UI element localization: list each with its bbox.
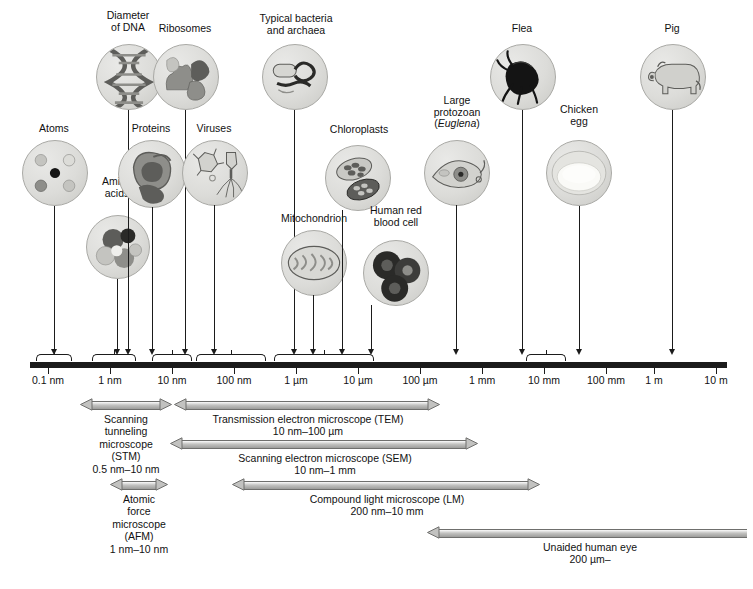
brace-10nm-right	[172, 354, 192, 361]
specimen-art-ribosomes	[154, 45, 218, 109]
range-arrow-unaided-eye	[427, 526, 747, 539]
specimen-art-chloroplasts	[326, 146, 390, 210]
specimen-bubble-typical-bacteria	[262, 44, 328, 110]
specimen-art-mitochondrion	[282, 231, 346, 295]
specimen-art-typical-bacteria	[263, 45, 327, 109]
specimen-label-typical-bacteria: Typical bacteria and archaea	[249, 13, 343, 36]
range-arrow-stm	[80, 398, 172, 411]
brace-um-right	[324, 354, 374, 361]
specimen-art-human-red-blood-cell	[364, 241, 428, 305]
specimen-art-atoms	[23, 141, 87, 205]
specimen-art-flea	[491, 45, 555, 109]
brace-0-1nm-right	[54, 354, 72, 361]
specimen-bubble-flea	[490, 44, 556, 110]
range-head-right-sem	[465, 437, 478, 450]
range-arrow-sem	[170, 437, 478, 450]
specimen-bubble-mitochondrion	[281, 230, 347, 296]
axis-tick-label-7: 1 mm	[452, 374, 512, 386]
range-caption-afm: Atomic force microscope (AFM) 1 nm–10 nm	[98, 493, 180, 555]
range-shaft-lm	[243, 481, 529, 490]
range-head-left-afm	[110, 478, 123, 491]
axis-tick-label-5: 10 µm	[328, 374, 388, 386]
specimen-art-large-protozoan	[425, 141, 489, 205]
brace-10nm-left	[152, 354, 172, 361]
specimen-bubble-ribosomes	[153, 44, 219, 110]
specimen-label-atoms: Atoms	[22, 123, 86, 135]
leader-line-large-protozoan	[456, 205, 457, 349]
range-arrow-tem	[174, 398, 440, 411]
leader-line-flea	[522, 110, 523, 349]
axis-tick-label-1: 1 nm	[80, 374, 140, 386]
axis-tick-label-4: 1 µm	[266, 374, 326, 386]
brace-10mm	[526, 350, 566, 360]
specimen-label-pig: Pig	[638, 23, 706, 35]
specimen-bubble-amino-acids	[86, 215, 150, 279]
specimen-bubble-pig	[640, 44, 706, 110]
range-caption-sem: Scanning electron microscope (SEM) 10 nm…	[176, 452, 474, 477]
range-head-right-lm	[527, 478, 540, 491]
leader-line-pig	[672, 110, 673, 349]
specimen-bubble-chicken-egg	[546, 140, 612, 206]
specimen-bubble-atoms	[22, 140, 88, 206]
specimen-art-viruses	[183, 141, 247, 205]
brace-100nm-right	[231, 354, 266, 361]
range-shaft-afm	[121, 481, 157, 490]
leader-line-chicken-egg	[579, 206, 580, 349]
brace-0-1nm-left	[36, 354, 54, 361]
leader-line-viruses	[214, 205, 215, 349]
leader-line-amino-acids	[117, 279, 118, 349]
specimen-bubble-large-protozoan	[424, 140, 490, 206]
range-head-right-afm	[155, 478, 168, 491]
specimen-label-viruses: Viruses	[182, 123, 246, 135]
axis-tick-label-6: 100 µm	[390, 374, 450, 386]
specimen-bubble-human-red-blood-cell	[363, 240, 429, 306]
specimen-art-diameter-of-dna	[97, 45, 161, 109]
brace-10nm	[152, 350, 192, 360]
specimen-label-chloroplasts: Chloroplasts	[320, 124, 398, 136]
axis-tick-label-10: 1 m	[624, 374, 684, 386]
range-shaft-stm	[91, 401, 161, 410]
leader-line-proteins	[152, 207, 153, 349]
specimen-bubble-viruses	[182, 140, 248, 206]
specimen-label-mitochondrion: Mitochondrion	[270, 213, 358, 225]
specimen-label-human-red-blood-cell: Human red blood cell	[356, 205, 436, 228]
axis-tick-label-2: 10 nm	[142, 374, 202, 386]
axis-tick-label-0: 0.1 nm	[18, 374, 78, 386]
specimen-label-flea: Flea	[488, 23, 556, 35]
brace-0-1nm-tip	[54, 350, 55, 355]
leader-arrowhead-pig	[669, 349, 675, 355]
axis-tick-label-3: 100 nm	[204, 374, 264, 386]
specimen-bubble-chloroplasts	[325, 145, 391, 211]
brace-10mm-right	[546, 354, 566, 361]
specimen-label-proteins: Proteins	[118, 123, 184, 135]
specimen-art-proteins	[119, 141, 185, 207]
brace-100nm-tip	[231, 350, 232, 355]
brace-um-tip	[324, 350, 325, 355]
brace-um	[274, 350, 374, 360]
leader-line-chloroplasts	[342, 210, 343, 349]
figure-canvas: Atoms Amino acids Diameter of DNA Protei…	[0, 0, 753, 589]
brace-1nm-left	[92, 354, 114, 361]
specimen-label-chicken-egg: Chicken egg	[546, 104, 612, 127]
range-head-right-stm	[159, 398, 172, 411]
brace-1nm	[92, 350, 136, 360]
brace-um-left	[274, 354, 324, 361]
axis-tick-label-8: 10 mm	[514, 374, 574, 386]
leader-line-typical-bacteria	[294, 110, 295, 349]
brace-0-1nm	[36, 350, 72, 360]
range-shaft-unaided-eye	[438, 529, 747, 538]
brace-10mm-tip	[546, 350, 547, 355]
brace-100nm	[196, 350, 266, 360]
range-head-left-stm	[80, 398, 93, 411]
size-axis-bar	[30, 362, 727, 368]
brace-10nm-tip	[172, 350, 173, 355]
specimen-label-ribosomes: Ribosomes	[151, 23, 219, 35]
range-head-left-unaided-eye	[427, 526, 440, 539]
leader-line-human-red-blood-cell	[371, 305, 372, 349]
range-head-left-sem	[170, 437, 183, 450]
range-caption-tem: Transmission electron microscope (TEM) 1…	[180, 413, 436, 438]
range-head-right-tem	[427, 398, 440, 411]
specimen-art-chicken-egg	[547, 141, 611, 205]
range-arrow-afm	[110, 478, 168, 491]
leader-line-mitochondrion	[313, 295, 314, 349]
